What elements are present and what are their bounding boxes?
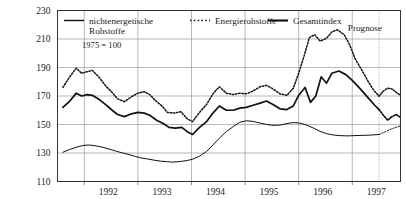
x-tick-label: 1992 (99, 187, 118, 197)
x-tick-label: 1993 (152, 187, 171, 197)
legend-label-gesamt: Gesamtindex (293, 16, 342, 26)
y-tick-label: 130 (36, 148, 51, 158)
y-tick-label: 150 (36, 120, 51, 130)
y-tick-label: 190 (36, 63, 51, 73)
x-tick-label: 1994 (206, 187, 225, 197)
base-year-note: 1975 = 100 (82, 40, 121, 50)
forecast-region-label: Prognose (348, 23, 382, 33)
x-tick-label: 1996 (313, 187, 332, 197)
x-tick-label: 1997 (367, 187, 386, 197)
legend-label-energie: Energierohstoffe (215, 16, 276, 26)
raw-materials-price-index-line-chart: 110130150170190210230 199219931994199519… (0, 0, 406, 199)
x-tick-label: 1995 (260, 187, 279, 197)
y-tick-label: 230 (36, 6, 51, 16)
legend-label-nichtenergetische: nichtenergetische (89, 16, 153, 26)
y-tick-label: 170 (36, 91, 51, 101)
y-tick-label: 210 (36, 34, 51, 44)
chart-container: 110130150170190210230 199219931994199519… (0, 0, 406, 199)
chart-background (0, 0, 406, 199)
y-tick-label: 110 (37, 177, 51, 187)
legend-label-nichtenergetische-line2: Rohstoffe (89, 26, 125, 36)
